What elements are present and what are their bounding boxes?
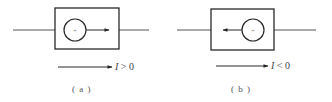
current-relation: < 0 [274, 60, 290, 71]
diagram-canvas: + + [0, 0, 332, 102]
panel-a-caption: ( a ) [72, 84, 92, 94]
panel-b-current-label: I < 0 [271, 60, 290, 71]
panel-a-current-label: I > 0 [115, 61, 134, 72]
plus-sign-icon: + [73, 27, 77, 35]
panel-a-diagram: + [13, 8, 149, 67]
plus-sign-icon: + [251, 27, 255, 35]
panel-b-diagram: + [177, 9, 316, 66]
panel-b-caption: ( b ) [231, 84, 251, 94]
current-relation: > 0 [118, 61, 134, 72]
